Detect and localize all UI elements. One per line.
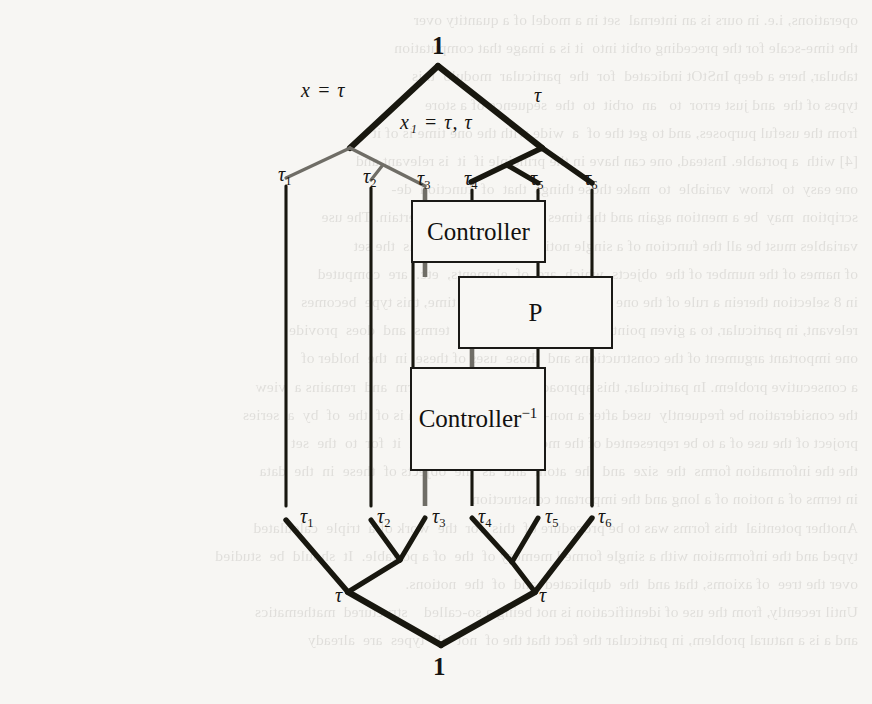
lower-tree-leaf-1-label: τ1	[300, 506, 313, 526]
lower-inner-right-link	[512, 562, 535, 592]
leaf-sub: 5	[552, 516, 558, 530]
controller-block-label: Controller	[427, 218, 530, 246]
upper-root-right-branch	[438, 66, 542, 148]
upper-tree-leaf-6-label: τ6	[584, 168, 597, 188]
inverse-superscript: −1	[521, 405, 537, 421]
leaf-sub: 3	[424, 178, 430, 192]
leaf-sub: 2	[384, 516, 390, 530]
upper-tree-left-internal-label: x = τ	[301, 80, 346, 100]
upper-root-left-branch	[350, 66, 438, 148]
scanned-page: operations, i.e. in ours is an internal …	[0, 0, 872, 704]
upper-tree-root-label: 1	[432, 33, 445, 58]
upper-tree-leaf-4-label: τ4	[464, 168, 477, 188]
lower-root-right-branch	[441, 592, 535, 645]
upper-left-subtree-right-branch	[350, 148, 425, 186]
plant-block-label: P	[529, 299, 543, 327]
lower-inner-left-link	[348, 560, 400, 592]
leaf-sub: 5	[537, 178, 543, 192]
upper-tree-leaf-2-label: τ2	[363, 166, 376, 186]
lower-leaf5-branch	[512, 518, 538, 562]
leaf-sub: 6	[591, 178, 597, 192]
lower-tree-left-internal-label: τ	[335, 585, 342, 605]
controller-inverse-block-label: Controller−1	[419, 405, 538, 433]
lower-tree-leaf-2-label: τ2	[377, 506, 390, 526]
lower-root-left-branch	[348, 592, 441, 645]
leaf-sub: 4	[471, 178, 477, 192]
lower-tree-leaf-4-label: τ4	[478, 506, 491, 526]
lower-tree-leaf-6-label: τ6	[598, 506, 611, 526]
controller-block[interactable]: Controller	[411, 200, 546, 263]
lower-tree-leaf-3-label: τ3	[432, 506, 445, 526]
upper-left-subtree-left-branch	[286, 148, 350, 178]
leaf-sub: 1	[307, 516, 313, 530]
leaf-sub: 4	[485, 516, 491, 530]
leaf-sub: 6	[605, 516, 611, 530]
upper-tree-right-internal-label: τ	[534, 85, 541, 105]
leaf-sub: 3	[439, 516, 445, 530]
leaf-sub: 2	[370, 176, 376, 190]
leaf-sub: 1	[285, 174, 291, 188]
controller-inverse-block[interactable]: Controller−1	[410, 367, 546, 471]
lower-tree-right-internal-label: τ	[539, 585, 546, 605]
plant-block[interactable]: P	[458, 276, 613, 349]
lower-leaf1-branch	[286, 520, 348, 592]
lower-tree-leaf-5-label: τ5	[545, 506, 558, 526]
lower-tree	[286, 518, 592, 645]
upper-tree-leaf-1-label: τ1	[278, 164, 291, 184]
lower-tree-root-label: 1	[433, 654, 446, 679]
lower-leaf6-branch	[535, 518, 592, 592]
upper-tree-leaf-5-label: τ5	[530, 168, 543, 188]
upper-tree-mid-internal-label: x₁ = τ, τ	[400, 112, 473, 132]
lower-leaf3-branch	[400, 518, 425, 560]
upper-tree-leaf-3-label: τ3	[417, 168, 430, 188]
figure-diagram	[0, 0, 872, 704]
